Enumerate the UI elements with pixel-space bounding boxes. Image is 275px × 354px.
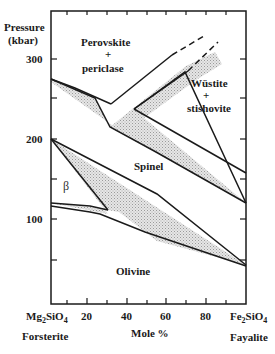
right-end-name: Fayalite	[230, 331, 268, 343]
field-label-plus: +	[105, 48, 111, 60]
y-tick-label-200: 200	[26, 133, 43, 145]
x-axis-label: Mole %	[131, 327, 169, 339]
olivine-spinel-band	[51, 139, 246, 265]
field-label-plus: +	[203, 89, 209, 101]
field-label-stishovite: stishovite	[187, 102, 231, 114]
phase-diagram: Pressure (kbar) 300 200 100 20 40 60 80 …	[0, 0, 275, 354]
plot-frame	[51, 11, 246, 304]
y-axis-unit: (kbar)	[8, 34, 38, 47]
field-label-periclase: periclase	[82, 62, 124, 74]
field-label-olivine: Olivine	[116, 265, 150, 277]
x-tick-label-40: 40	[121, 310, 133, 322]
field-label-perovskite: Perovskite	[81, 36, 130, 48]
y-tick-label-100: 100	[26, 213, 43, 225]
left-end-name: Forsterite	[22, 330, 69, 342]
x-tick-label-80: 80	[200, 310, 212, 322]
y-tick-label-300: 300	[26, 53, 43, 65]
field-label-spinel: Spinel	[134, 160, 163, 172]
x-tick-label-20: 20	[81, 310, 93, 322]
field-label-beta: β	[63, 179, 69, 193]
left-end-formula: Mg2SiO4	[26, 310, 68, 325]
x-tick-label-60: 60	[160, 310, 172, 322]
x-ticks	[67, 11, 226, 304]
right-end-formula: Fe2SiO4	[230, 310, 267, 325]
y-axis-label: Pressure	[4, 21, 45, 33]
field-label-wustite: Wüstite	[191, 77, 228, 89]
boundary-line	[172, 36, 204, 55]
